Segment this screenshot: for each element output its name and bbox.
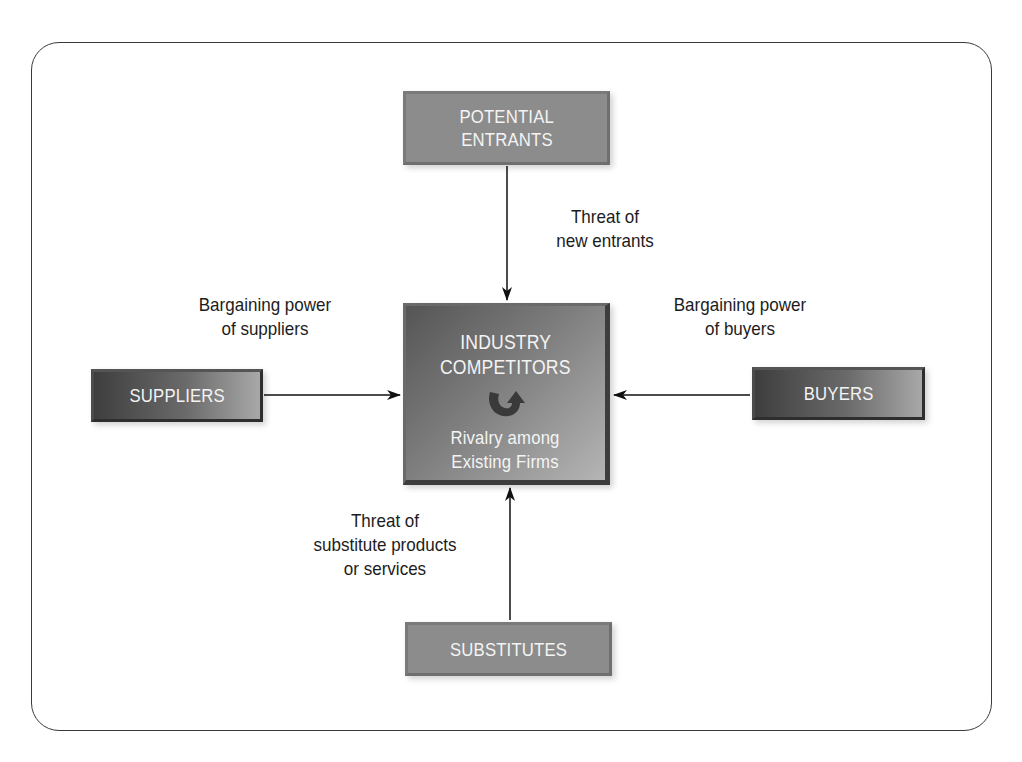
edge-label-line: Threat of	[279, 509, 491, 533]
rotation-arrow-icon	[484, 386, 528, 422]
potential-entrants-label-line1: POTENTIAL	[459, 105, 554, 128]
industry-competitors-node: INDUSTRY COMPETITORS Rivalry among Exist…	[403, 303, 610, 485]
potential-entrants-node: POTENTIAL ENTRANTS	[403, 91, 610, 165]
buyers-label: BUYERS	[804, 382, 874, 405]
substitutes-node: SUBSTITUTES	[405, 622, 612, 676]
buyers-node: BUYERS	[752, 367, 925, 420]
suppliers-label: SUPPLIERS	[129, 384, 224, 407]
center-sublabel-line2: Existing Firms	[452, 450, 559, 474]
edge-label-suppliers-power: Bargaining power of suppliers	[168, 293, 361, 341]
edge-label-line: substitute products	[279, 533, 491, 557]
center-sublabel-line1: Rivalry among	[451, 426, 560, 450]
edge-label-buyers-power: Bargaining power of buyers	[648, 293, 832, 341]
center-label-line2: COMPETITORS	[440, 355, 571, 380]
edge-label-new-entrants: Threat of new entrants	[545, 205, 665, 253]
edge-label-line: of buyers	[648, 317, 832, 341]
potential-entrants-label-line2: ENTRANTS	[461, 128, 553, 151]
edge-label-line: of suppliers	[168, 317, 361, 341]
edge-label-line: new entrants	[545, 229, 665, 253]
center-label-line1: INDUSTRY	[460, 330, 551, 355]
substitutes-label: SUBSTITUTES	[450, 638, 567, 661]
edge-label-line: or services	[279, 557, 491, 581]
edge-label-line: Bargaining power	[648, 293, 832, 317]
edge-label-substitutes: Threat of substitute products or service…	[279, 509, 491, 581]
suppliers-node: SUPPLIERS	[91, 369, 263, 422]
edge-label-line: Bargaining power	[168, 293, 361, 317]
edge-label-line: Threat of	[545, 205, 665, 229]
